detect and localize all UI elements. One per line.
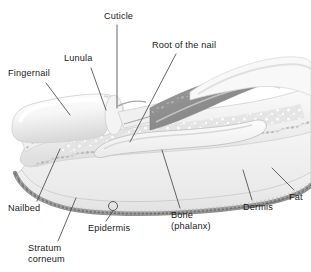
label-lunula: Lunula xyxy=(64,53,93,64)
label-dermis: Dermis xyxy=(243,202,273,213)
label-bone-phalanx: Bone (phalanx) xyxy=(171,210,211,232)
label-stratum-corneum: Stratum corneum xyxy=(28,243,65,265)
label-fat: Fat xyxy=(289,192,303,203)
label-nailbed: Nailbed xyxy=(8,203,40,214)
fingernail-anatomy-figure: Fingernail Lunula Cuticle Root of the na… xyxy=(0,0,311,272)
label-epidermis: Epidermis xyxy=(88,223,130,234)
label-root-of-the-nail: Root of the nail xyxy=(152,40,216,51)
label-fingernail: Fingernail xyxy=(8,68,50,79)
label-cuticle: Cuticle xyxy=(104,11,133,22)
